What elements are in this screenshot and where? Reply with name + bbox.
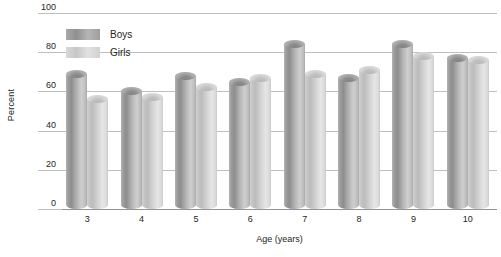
x-tick-label: 7: [283, 214, 327, 224]
y-axis-title: Percent: [0, 0, 22, 257]
bar-body: [392, 44, 413, 209]
bar-body: [359, 70, 380, 209]
bar-boys-age-6: [229, 78, 250, 209]
gridline-stub: [38, 209, 62, 210]
x-tick-label: 6: [228, 214, 272, 224]
legend-label-boys: Boys: [110, 27, 132, 42]
bar-cap: [250, 74, 271, 82]
bar-body: [468, 60, 489, 209]
bar-cap: [468, 56, 489, 64]
bar-body: [284, 44, 305, 209]
bar-cap: [175, 72, 196, 80]
y-tick-label: 20: [28, 160, 56, 169]
legend-swatch-boys-icon: [66, 29, 100, 40]
gridline: [62, 209, 497, 210]
gridline: [62, 13, 497, 14]
bar-cap: [66, 70, 87, 78]
gridline-stub: [38, 13, 62, 14]
bar-boys-age-9: [392, 40, 413, 209]
x-tick-label: 3: [65, 214, 109, 224]
gridline-stub: [38, 170, 62, 171]
bar-body: [305, 74, 326, 209]
x-tick-label: 4: [120, 214, 164, 224]
bar-girls-age-10: [468, 56, 489, 209]
y-tick-label: 0: [28, 199, 56, 208]
bar-girls-age-9: [413, 52, 434, 209]
bar-boys-age-8: [338, 74, 359, 209]
bar-girls-age-5: [196, 83, 217, 209]
bar-cap: [229, 78, 250, 86]
bar-girls-age-7: [305, 70, 326, 209]
bar-body: [87, 99, 108, 209]
y-tick-label: 60: [28, 81, 56, 90]
y-tick-label: 80: [28, 42, 56, 51]
bar-boys-age-3: [66, 70, 87, 209]
bar-boys-age-7: [284, 40, 305, 209]
x-tick-label: 8: [337, 214, 381, 224]
bar-girls-age-3: [87, 95, 108, 209]
gridline-stub: [38, 52, 62, 53]
x-tick-label: 5: [174, 214, 218, 224]
bar-boys-age-10: [447, 54, 468, 209]
bar-boys-age-5: [175, 72, 196, 209]
bar-girls-age-6: [250, 74, 271, 209]
bar-cap: [447, 54, 468, 62]
y-axis-title-label: Percent: [6, 72, 16, 138]
bar-body: [338, 78, 359, 209]
bar-chart: Percent 020406080100 345678910 Age (year…: [0, 0, 501, 257]
bar-cap: [305, 70, 326, 78]
bar-body: [66, 74, 87, 209]
bar-body: [250, 78, 271, 209]
x-tick-label: 9: [391, 214, 435, 224]
gridline-stub: [38, 131, 62, 132]
bar-boys-age-4: [121, 87, 142, 209]
bar-body: [413, 56, 434, 209]
bar-body: [121, 91, 142, 209]
gridline-stub: [38, 91, 62, 92]
bar-body: [142, 97, 163, 209]
y-tick-label: 40: [28, 121, 56, 130]
bar-body: [447, 58, 468, 209]
x-tick-label: 10: [446, 214, 490, 224]
legend-label-girls: Girls: [110, 45, 131, 60]
legend-swatch-girls-icon: [66, 47, 100, 58]
x-axis-title: Age (years): [62, 234, 497, 244]
bar-girls-age-8: [359, 66, 380, 209]
y-tick-label: 100: [28, 3, 56, 12]
bar-body: [196, 87, 217, 209]
bar-girls-age-4: [142, 93, 163, 209]
bar-cap: [359, 66, 380, 74]
plot-area: [62, 13, 497, 209]
bar-body: [175, 76, 196, 209]
bar-body: [229, 82, 250, 209]
bar-cap: [338, 74, 359, 82]
